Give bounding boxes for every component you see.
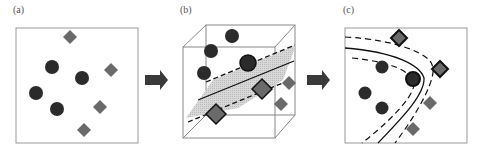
panel-a	[16, 28, 138, 143]
panel-c	[345, 28, 467, 143]
panel-a-box	[16, 28, 138, 143]
arrow-icon	[307, 70, 330, 90]
svm-kernel-diagram	[0, 0, 484, 151]
panel-c-box	[345, 28, 467, 143]
panel-b	[183, 25, 296, 138]
arrow-icon	[145, 70, 168, 90]
